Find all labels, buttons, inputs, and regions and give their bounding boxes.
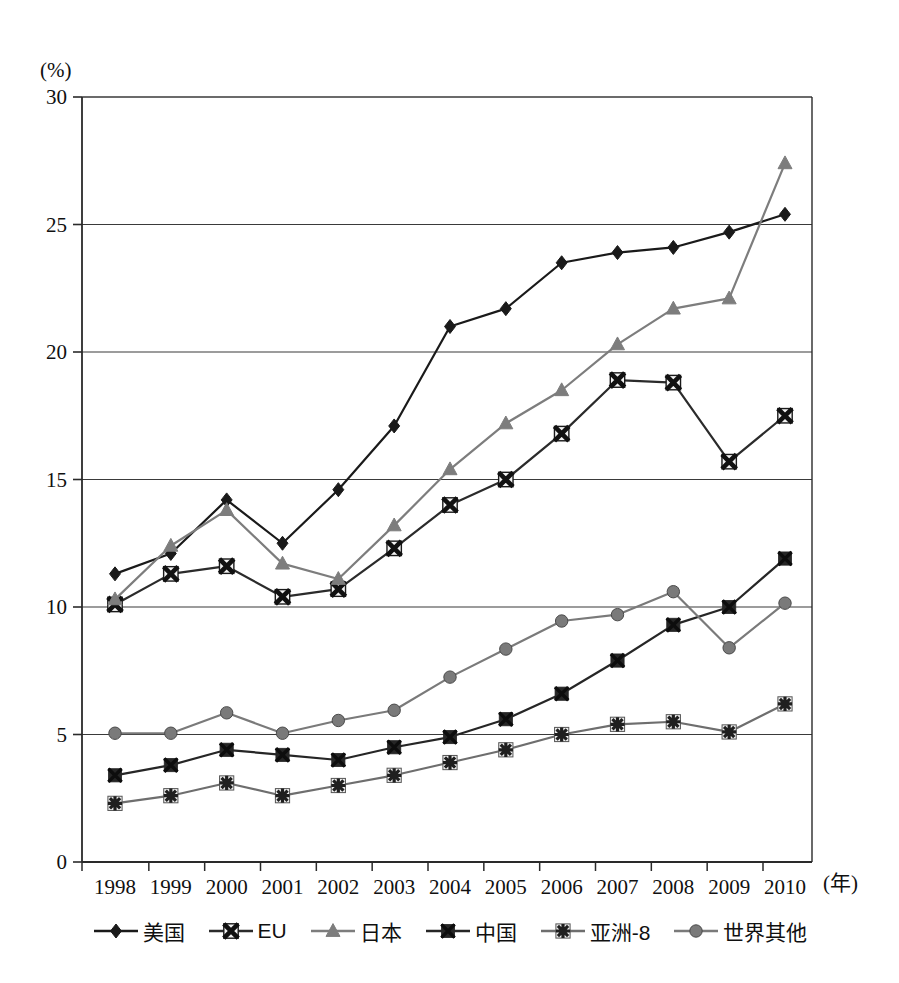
data-point-marker [275, 789, 289, 803]
y-tick-label: 10 [46, 595, 67, 619]
data-point-marker [165, 727, 177, 739]
chart-legend: 美国EU日本中国亚洲-8世界其他 [0, 916, 899, 946]
data-point-marker [220, 776, 234, 790]
legend-label: 世界其他 [723, 916, 807, 946]
y-tick-label: 20 [46, 340, 67, 364]
line-chart: (%) 051015202530 19981999200020012002200… [0, 0, 899, 983]
circle-glyph [690, 925, 702, 937]
data-point-marker [499, 743, 513, 757]
y-axis-tick-labels: 051015202530 [46, 85, 67, 874]
series-世界其他 [109, 586, 791, 740]
data-point-marker [444, 671, 456, 683]
x-tick-label: 2009 [708, 875, 750, 899]
data-point-marker [388, 704, 400, 716]
data-point-marker [779, 597, 791, 609]
data-point-marker [164, 789, 178, 803]
y-tick-label: 5 [57, 723, 68, 747]
series-line [115, 214, 785, 574]
legend-item-1[interactable]: EU [207, 919, 287, 943]
series-line [115, 163, 785, 599]
data-point-marker [500, 643, 512, 655]
series-line [115, 380, 785, 604]
legend-label: 日本 [360, 916, 402, 946]
legend-label: 亚洲-8 [590, 916, 651, 946]
data-point-marker [110, 567, 121, 581]
x-tick-label: 2007 [597, 875, 639, 899]
data-point-marker [612, 246, 623, 260]
data-point-marker [722, 725, 736, 739]
triangle-icon [309, 920, 357, 942]
data-point-marker [668, 240, 679, 254]
data-point-marker [443, 462, 457, 475]
gridlines [82, 97, 812, 735]
y-tick-label: 15 [46, 468, 67, 492]
data-point-marker [611, 337, 625, 350]
data-point-marker [332, 714, 344, 726]
data-point-marker [387, 768, 401, 782]
x-axis-unit-label: (年) [823, 866, 858, 896]
data-point-marker [724, 225, 735, 239]
diamond-icon [92, 920, 140, 942]
data-point-marker [555, 727, 569, 741]
data-point-marker [331, 778, 345, 792]
data-point-marker [556, 256, 567, 270]
data-point-marker [499, 416, 513, 429]
y-axis-ticks [73, 97, 82, 862]
x-tick-label: 2000 [206, 875, 248, 899]
legend-item-2[interactable]: 日本 [309, 916, 402, 946]
legend-item-0[interactable]: 美国 [92, 916, 185, 946]
series-中国 [108, 552, 791, 782]
data-point-marker [443, 755, 457, 769]
x-tick-label: 2010 [764, 875, 806, 899]
data-point-marker [555, 615, 567, 627]
data-point-marker [778, 156, 792, 169]
x-tick-label: 2005 [485, 875, 527, 899]
x-axis-ticks [82, 862, 763, 871]
x-tick-label: 2004 [429, 875, 472, 899]
data-series-layer [108, 156, 792, 811]
x-tick-label: 2001 [262, 875, 304, 899]
data-point-marker [500, 302, 511, 316]
x-tick-label: 2006 [541, 875, 583, 899]
x-tick-label: 2002 [317, 875, 359, 899]
x-tick-label: 2008 [652, 875, 694, 899]
y-tick-label: 0 [57, 850, 68, 874]
data-point-marker [723, 642, 735, 654]
data-point-marker [555, 383, 569, 396]
data-point-marker [778, 697, 792, 711]
data-point-marker [667, 586, 679, 598]
data-point-marker [108, 796, 122, 810]
data-point-marker [722, 291, 736, 304]
data-point-marker [276, 727, 288, 739]
series-EU [108, 373, 792, 612]
x-square-icon [207, 920, 255, 942]
series-美国 [110, 207, 791, 581]
diamond-glyph [110, 924, 121, 938]
data-point-marker [611, 608, 623, 620]
data-point-marker [164, 538, 178, 551]
y-tick-label: 25 [46, 213, 67, 237]
x-icon [424, 920, 472, 942]
asterisk-icon [539, 920, 587, 942]
x-axis-tick-labels: 1998199920002001200220032004200520062007… [94, 875, 806, 899]
legend-label: 中国 [475, 916, 517, 946]
chart-canvas: 051015202530 199819992000200120022003200… [0, 0, 899, 983]
y-tick-label: 30 [46, 85, 67, 109]
data-point-marker [220, 707, 232, 719]
circle-icon [672, 920, 720, 942]
series-line [115, 592, 785, 734]
legend-item-5[interactable]: 世界其他 [672, 916, 807, 946]
x-tick-label: 2003 [373, 875, 415, 899]
x-tick-label: 1999 [150, 875, 192, 899]
legend-item-3[interactable]: 中国 [424, 916, 517, 946]
legend-label: EU [258, 919, 287, 943]
data-point-marker [610, 717, 624, 731]
data-point-marker [780, 207, 791, 221]
data-point-marker [109, 727, 121, 739]
data-point-marker [666, 715, 680, 729]
asterisk-glyph [556, 924, 570, 938]
legend-label: 美国 [143, 916, 185, 946]
series-日本 [108, 156, 792, 605]
x-tick-label: 1998 [94, 875, 136, 899]
legend-item-4[interactable]: 亚洲-8 [539, 916, 651, 946]
